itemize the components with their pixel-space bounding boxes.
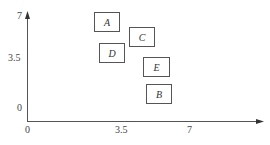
axes [0,0,270,145]
x-tick-3-5: 3.5 [115,125,128,135]
box-b-label: B [156,89,162,100]
box-a: A [94,12,120,32]
y-axis-arrow-icon [25,11,30,19]
y-tick-7: 7 [17,11,22,21]
x-tick-7: 7 [187,125,192,135]
box-b: B [146,84,172,104]
x-axis-arrow-icon [256,119,264,124]
box-d: D [99,43,125,63]
x-tick-0: 0 [25,125,30,135]
box-e: E [143,57,170,77]
box-e-label: E [153,62,159,73]
box-c-label: C [139,32,146,43]
box-d-label: D [108,48,115,59]
box-c: C [129,27,155,47]
box-a-label: A [104,17,110,28]
y-tick-3-5: 3.5 [8,53,21,63]
y-tick-0: 0 [17,103,22,113]
